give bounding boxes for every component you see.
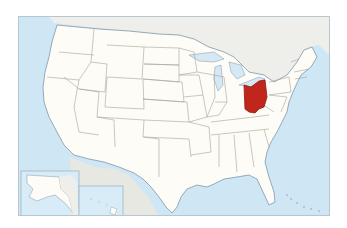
hawaii-inset xyxy=(79,186,123,216)
us-map xyxy=(19,17,330,216)
map-frame xyxy=(18,16,330,216)
alaska-inset xyxy=(21,171,79,216)
